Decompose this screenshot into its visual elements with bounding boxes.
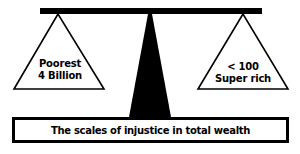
right-pan-line1: < 100 xyxy=(208,61,278,73)
left-pan-line1: Poorest xyxy=(30,58,90,70)
right-pan-line2: Super rich xyxy=(208,73,278,85)
fulcrum xyxy=(129,14,171,117)
diagram-caption: The scales of injustice in total wealth xyxy=(12,117,289,143)
caption-text: The scales of injustice in total wealth xyxy=(51,125,250,136)
scale-beam xyxy=(40,8,262,14)
left-pan-label: Poorest 4 Billion xyxy=(30,58,90,82)
right-pan-label: < 100 Super rich xyxy=(208,61,278,85)
left-pan-line2: 4 Billion xyxy=(30,70,90,82)
